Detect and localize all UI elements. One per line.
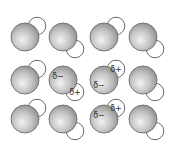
oxygen-atom bbox=[129, 23, 157, 51]
partial-negative-label: δ− bbox=[52, 72, 64, 81]
partial-negative-label: δ− bbox=[93, 81, 105, 90]
oxygen-atom bbox=[11, 105, 39, 133]
partial-positive-label: δ+ bbox=[110, 65, 122, 74]
water-molecule bbox=[90, 17, 125, 51]
water-molecule bbox=[11, 17, 46, 51]
water-molecule: δ+δ− bbox=[90, 60, 125, 94]
oxygen-atom bbox=[49, 23, 77, 51]
partial-positive-label: δ+ bbox=[110, 104, 122, 113]
water-molecule bbox=[49, 105, 84, 140]
water-molecule bbox=[11, 60, 46, 94]
partial-positive-label: δ+ bbox=[69, 88, 81, 97]
oxygen-atom bbox=[11, 23, 39, 51]
water-molecule bbox=[129, 66, 164, 101]
oxygen-atom bbox=[129, 105, 157, 133]
oxygen-atom bbox=[129, 66, 157, 94]
water-molecule: δ+δ− bbox=[90, 99, 125, 133]
water-molecule bbox=[49, 23, 84, 58]
oxygen-atom bbox=[11, 66, 39, 94]
water-molecule bbox=[11, 99, 46, 133]
oxygen-atom bbox=[90, 23, 118, 51]
oxygen-atom bbox=[49, 105, 77, 133]
molecule-grid: δ+δ−δ+δ−δ+δ− bbox=[11, 17, 164, 140]
water-molecule bbox=[129, 23, 164, 58]
water-molecule: δ+δ− bbox=[49, 66, 84, 101]
partial-negative-label: δ− bbox=[93, 111, 105, 120]
water-molecule-diagram: δ+δ−δ+δ−δ+δ− bbox=[0, 0, 176, 146]
water-molecule bbox=[129, 105, 164, 140]
